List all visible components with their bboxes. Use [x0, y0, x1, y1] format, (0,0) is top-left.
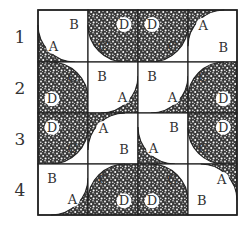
label-A: A	[117, 90, 128, 105]
label-B: B	[147, 69, 157, 84]
tile-r2-c2: AB	[88, 62, 138, 113]
label-C: C	[167, 39, 177, 54]
label-A: A	[98, 121, 109, 136]
label-A: A	[216, 172, 227, 187]
label-C: C	[167, 172, 177, 187]
label-C: C	[198, 70, 208, 85]
label-D: D	[119, 193, 129, 208]
tile-r3-c1: CD	[38, 113, 88, 164]
label-B: B	[197, 193, 207, 208]
label-A: A	[67, 192, 78, 207]
label-D: D	[218, 91, 228, 106]
tile-r3-c4: CD	[188, 113, 237, 164]
tile-r1-c1: AB	[38, 10, 88, 62]
label-B: B	[169, 120, 179, 135]
label-C: C	[99, 39, 109, 54]
label-B: B	[218, 40, 228, 55]
label-A: A	[148, 141, 159, 156]
tile-r3-c2: AB	[88, 113, 138, 164]
tile-r1-c3: CD	[138, 10, 188, 62]
label-C: C	[67, 70, 77, 85]
label-A: A	[198, 18, 209, 33]
tile-grid: ABCDCDABCDABABCDCDABABCDABCDCDAB	[0, 0, 249, 230]
tile-r3-c3: AB	[138, 113, 188, 164]
label-D: D	[147, 193, 157, 208]
tile-r1-c4: AB	[188, 10, 237, 62]
label-D: D	[47, 91, 57, 106]
tile-r1-c2: CD	[88, 10, 138, 62]
tiles-layer: ABCDCDABCDABABCDCDABABCDABCDCDAB	[38, 10, 237, 215]
tile-r4-c2: CD	[88, 164, 138, 215]
tile-r2-c1: CD	[38, 62, 88, 113]
tile-r4-c4: AB	[188, 164, 237, 215]
label-C: C	[67, 141, 77, 156]
label-B: B	[97, 69, 107, 84]
tile-r4-c1: AB	[38, 164, 88, 215]
label-A: A	[48, 39, 59, 54]
label-B: B	[47, 171, 57, 186]
label-D: D	[47, 120, 57, 135]
label-B: B	[119, 142, 129, 157]
label-D: D	[218, 120, 228, 135]
tile-r2-c3: AB	[138, 62, 188, 113]
label-A: A	[167, 90, 178, 105]
label-B: B	[69, 17, 79, 32]
tile-r2-c4: CD	[188, 62, 237, 113]
label-D: D	[147, 17, 157, 32]
label-C: C	[99, 172, 109, 187]
tile-puzzle-figure: 1 2 3 4 ABCDCDABCDABABCDCDABABCDABCDCDAB	[0, 0, 249, 230]
label-D: D	[119, 17, 129, 32]
tile-r4-c3: CD	[138, 164, 188, 215]
label-C: C	[198, 141, 208, 156]
